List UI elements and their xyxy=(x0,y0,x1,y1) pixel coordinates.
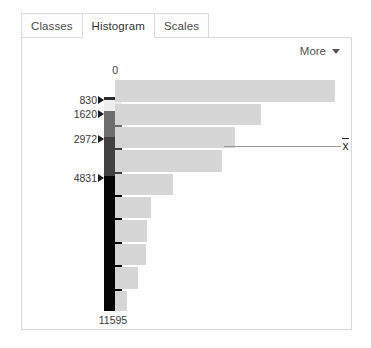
mean-glyph: x xyxy=(342,140,349,152)
triangle-right-icon xyxy=(98,110,104,118)
tab-classes-label: Classes xyxy=(31,20,73,32)
mean-symbol-label: x xyxy=(342,138,349,152)
class-break-label-3: 4831 xyxy=(74,172,97,184)
class-break-handle-3[interactable]: 4831 xyxy=(46,172,104,184)
histogram-panel: More x 0 11595 xyxy=(21,37,352,330)
class-break-label-0: 830 xyxy=(79,94,97,106)
histogram-bar[interactable] xyxy=(115,220,147,242)
triangle-right-icon xyxy=(98,135,104,143)
histogram-bar[interactable] xyxy=(115,80,335,102)
histogram-bar[interactable] xyxy=(115,197,151,218)
histogram-bar[interactable] xyxy=(115,267,138,289)
tab-histogram[interactable]: Histogram xyxy=(82,13,155,38)
class-break-label-1: 1620 xyxy=(74,108,97,120)
histogram-bar[interactable] xyxy=(115,174,173,195)
triangle-right-icon xyxy=(98,96,104,104)
class-break-handle-0[interactable]: 830 xyxy=(46,94,104,106)
histogram-bar[interactable] xyxy=(115,127,235,148)
histogram-plot: x 0 11595 830 1620 2972 4831 xyxy=(22,38,353,331)
class-break-label-2: 2972 xyxy=(74,133,97,145)
tab-scales-label: Scales xyxy=(164,20,199,32)
tab-histogram-label: Histogram xyxy=(92,20,145,32)
tab-classes[interactable]: Classes xyxy=(21,13,83,38)
axis-max-label: 11595 xyxy=(85,314,141,326)
histogram-bar[interactable] xyxy=(115,291,127,311)
tab-scales[interactable]: Scales xyxy=(154,13,209,38)
histogram-bar[interactable] xyxy=(115,104,261,125)
class-break-handle-1[interactable]: 1620 xyxy=(46,108,104,120)
tab-strip: Classes Histogram Scales xyxy=(21,13,208,38)
class-break-handle-2[interactable]: 2972 xyxy=(46,133,104,145)
axis-min-label: 0 xyxy=(92,64,118,76)
triangle-right-icon xyxy=(98,174,104,182)
histogram-bar[interactable] xyxy=(115,244,146,265)
histogram-bar[interactable] xyxy=(115,150,222,172)
mean-leader-line xyxy=(224,146,341,147)
